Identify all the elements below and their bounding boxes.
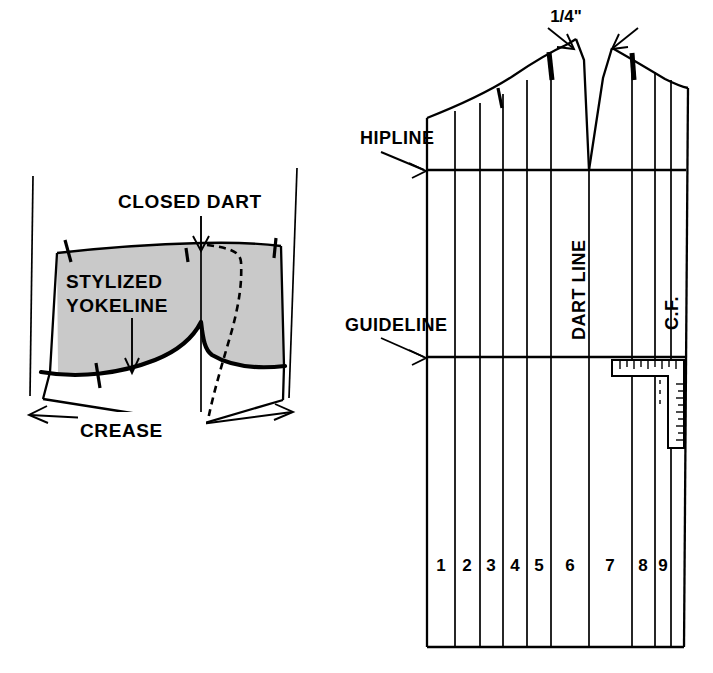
- section-number-3: 3: [486, 556, 495, 575]
- section-number-2: 2: [462, 556, 471, 575]
- quarter-inch-label: 1/4": [550, 7, 582, 26]
- dart-notch-right-leg: [589, 48, 612, 170]
- quarter-inch-arrow-right: [612, 28, 638, 49]
- section-number-5: 5: [534, 556, 543, 575]
- notch-tick-dart-left: [186, 248, 188, 262]
- figure-root: CLOSED DART STYLIZED YOKELINE CREASE: [0, 0, 713, 673]
- section-number-1: 1: [436, 556, 445, 575]
- left-side-guide-line: [30, 176, 33, 396]
- hipline-arrow: [381, 152, 426, 178]
- section-number-6: 6: [565, 556, 574, 575]
- section-number-9: 9: [658, 556, 667, 575]
- panel-left-edge: [43, 253, 57, 399]
- center-front-label: C.F.: [662, 296, 682, 330]
- waist-notch-left: [498, 88, 502, 108]
- guideline-arrow: [381, 338, 426, 365]
- closed-dart-label: CLOSED DART: [118, 191, 262, 212]
- section-number-row: 1 2 3 4 5 6 7 8 9: [436, 556, 667, 575]
- waist-notch-dart-right: [632, 53, 634, 80]
- dart-line-label: DART LINE: [569, 240, 589, 341]
- notch-tick-top-right: [274, 238, 276, 258]
- section-number-8: 8: [638, 556, 647, 575]
- left-diagram-group: CLOSED DART STYLIZED YOKELINE CREASE: [29, 168, 297, 441]
- tailors-square-ruler: [612, 360, 684, 448]
- pattern-drafting-illustration: CLOSED DART STYLIZED YOKELINE CREASE: [0, 0, 713, 673]
- stylized-yokeline-label-line2: YOKELINE: [66, 295, 168, 316]
- right-side-guide-line: [289, 168, 297, 398]
- section-number-4: 4: [510, 556, 520, 575]
- guideline-label: GUIDELINE: [345, 315, 448, 335]
- crease-label: CREASE: [80, 420, 163, 441]
- dart-notch-left-leg: [576, 39, 589, 170]
- hipline-label: HIPLINE: [360, 128, 435, 148]
- waist-curve-right: [612, 48, 688, 88]
- right-diagram-group: 1/4" HIPLINE GUIDELINE DART LI: [345, 7, 688, 647]
- waist-notch-dart-left: [549, 52, 552, 80]
- section-number-7: 7: [605, 556, 614, 575]
- stylized-yokeline-label-line1: STYLIZED: [66, 271, 163, 292]
- quarter-inch-arrow-left: [548, 28, 574, 49]
